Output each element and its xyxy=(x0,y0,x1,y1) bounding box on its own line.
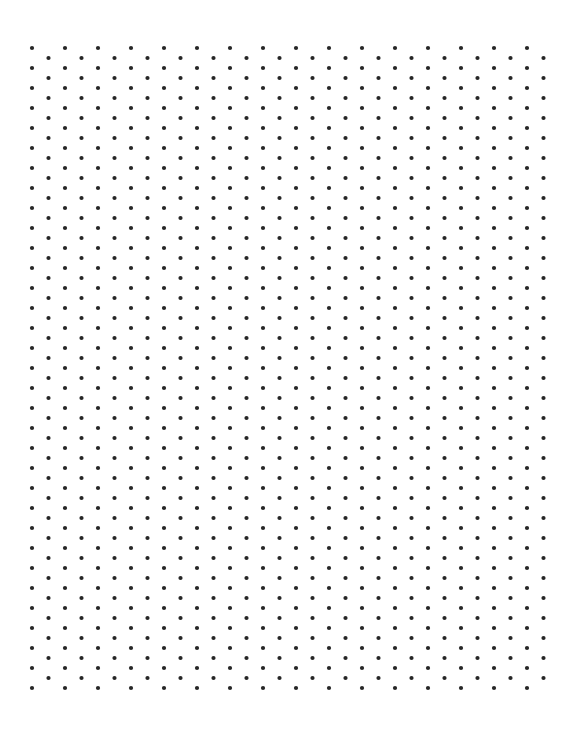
grid-dot xyxy=(244,376,248,380)
grid-dot xyxy=(475,336,479,340)
grid-dot xyxy=(277,156,281,160)
grid-dot xyxy=(145,596,149,600)
grid-dot xyxy=(475,116,479,120)
grid-dot xyxy=(541,76,545,80)
grid-dot xyxy=(195,466,199,470)
grid-dot xyxy=(30,246,34,250)
grid-dot xyxy=(475,316,479,320)
grid-dot xyxy=(244,216,248,220)
grid-dot xyxy=(96,226,100,230)
grid-dot xyxy=(327,506,331,510)
grid-dot xyxy=(376,416,380,420)
grid-dot xyxy=(79,96,83,100)
grid-dot xyxy=(228,86,232,90)
grid-dot xyxy=(426,366,430,370)
grid-dot xyxy=(277,496,281,500)
grid-dot xyxy=(376,656,380,660)
grid-dot xyxy=(30,446,34,450)
grid-dot xyxy=(508,236,512,240)
grid-dot xyxy=(261,606,265,610)
grid-dot xyxy=(426,46,430,50)
grid-dot xyxy=(162,126,166,130)
grid-dot xyxy=(244,596,248,600)
grid-dot xyxy=(277,316,281,320)
grid-dot xyxy=(112,76,116,80)
grid-dot xyxy=(63,186,67,190)
grid-dot xyxy=(343,356,347,360)
grid-dot xyxy=(393,86,397,90)
grid-dot xyxy=(178,616,182,620)
grid-dot xyxy=(195,126,199,130)
grid-dot xyxy=(393,446,397,450)
grid-dot xyxy=(112,96,116,100)
grid-dot xyxy=(96,606,100,610)
grid-dot xyxy=(129,346,133,350)
grid-dot xyxy=(277,376,281,380)
grid-dot xyxy=(46,616,50,620)
grid-dot xyxy=(525,606,529,610)
grid-dot xyxy=(211,156,215,160)
grid-dot xyxy=(30,466,34,470)
grid-dot xyxy=(79,656,83,660)
grid-dot xyxy=(145,216,149,220)
grid-dot xyxy=(261,86,265,90)
grid-dot xyxy=(129,506,133,510)
grid-dot xyxy=(409,76,413,80)
grid-dot xyxy=(228,126,232,130)
grid-dot xyxy=(277,516,281,520)
grid-dot xyxy=(492,106,496,110)
grid-dot xyxy=(79,76,83,80)
grid-dot xyxy=(30,226,34,230)
grid-dot xyxy=(475,476,479,480)
grid-dot xyxy=(376,536,380,540)
grid-dot xyxy=(79,636,83,640)
grid-dot xyxy=(360,526,364,530)
grid-dot xyxy=(244,156,248,160)
grid-dot xyxy=(327,526,331,530)
grid-dot xyxy=(541,136,545,140)
grid-dot xyxy=(525,166,529,170)
grid-dot xyxy=(112,136,116,140)
grid-dot xyxy=(442,476,446,480)
grid-dot xyxy=(129,206,133,210)
grid-dot xyxy=(360,206,364,210)
grid-dot xyxy=(409,396,413,400)
grid-dot xyxy=(195,326,199,330)
grid-dot xyxy=(63,146,67,150)
grid-dot xyxy=(129,566,133,570)
grid-dot xyxy=(145,376,149,380)
grid-dot xyxy=(63,406,67,410)
grid-dot xyxy=(525,366,529,370)
grid-dot xyxy=(426,286,430,290)
grid-dot xyxy=(261,406,265,410)
grid-dot xyxy=(178,416,182,420)
grid-dot xyxy=(541,476,545,480)
grid-dot xyxy=(475,236,479,240)
grid-dot xyxy=(244,416,248,420)
grid-dot xyxy=(145,656,149,660)
grid-dot xyxy=(162,426,166,430)
grid-dot xyxy=(96,106,100,110)
grid-dot xyxy=(459,126,463,130)
grid-dot xyxy=(211,476,215,480)
grid-dot xyxy=(261,626,265,630)
grid-dot xyxy=(30,86,34,90)
grid-dot xyxy=(195,406,199,410)
grid-dot xyxy=(178,356,182,360)
grid-dot xyxy=(112,196,116,200)
grid-dot xyxy=(310,56,314,60)
grid-dot xyxy=(277,636,281,640)
grid-dot xyxy=(393,586,397,590)
grid-dot xyxy=(525,206,529,210)
grid-dot xyxy=(46,196,50,200)
grid-dot xyxy=(244,676,248,680)
grid-dot xyxy=(162,526,166,530)
grid-dot xyxy=(63,266,67,270)
grid-dot xyxy=(46,316,50,320)
grid-dot xyxy=(79,496,83,500)
grid-dot xyxy=(360,186,364,190)
grid-dot xyxy=(310,316,314,320)
grid-dot xyxy=(426,646,430,650)
grid-dot xyxy=(310,496,314,500)
grid-dot xyxy=(261,306,265,310)
